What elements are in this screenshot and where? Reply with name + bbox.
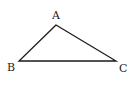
triangle-diagram: A B C — [0, 0, 137, 86]
triangle-abc — [19, 25, 116, 61]
vertex-label-a: A — [51, 9, 61, 22]
vertex-label-c: C — [119, 62, 127, 75]
vertex-label-b: B — [7, 61, 15, 74]
